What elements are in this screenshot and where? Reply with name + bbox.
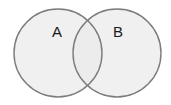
- set-b-label: B: [113, 23, 123, 40]
- venn-svg: A B: [0, 0, 171, 105]
- venn-diagram: A B: [0, 0, 171, 105]
- set-a-label: A: [52, 23, 62, 40]
